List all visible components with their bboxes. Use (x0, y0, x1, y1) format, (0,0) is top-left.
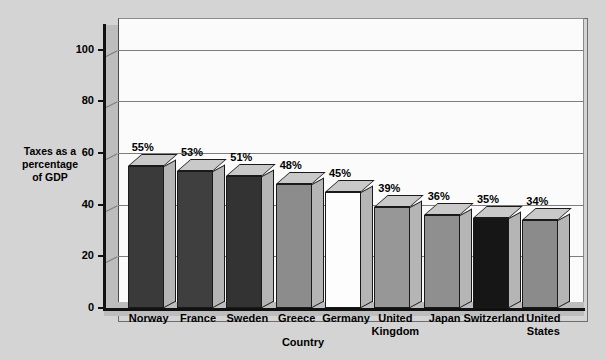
bar-front-face (522, 220, 558, 308)
bar-chart: 020406080100 Taxes as a percentage of GD… (0, 0, 606, 359)
bar-value-label: 39% (378, 182, 400, 194)
bar-value-label: 53% (181, 146, 203, 158)
bar-value-label: 48% (280, 159, 302, 171)
bar-side-face (262, 170, 274, 308)
bar-front-face (177, 171, 213, 308)
bar-side-face (164, 160, 176, 308)
bar-france: 53% (177, 171, 213, 308)
bar-norway: 55% (128, 166, 164, 308)
bar-switzerland: 35% (473, 218, 509, 308)
bar-value-label: 34% (526, 195, 548, 207)
bar-germany: 45% (325, 192, 361, 308)
bar-japan: 36% (424, 215, 460, 308)
bar-front-face (325, 192, 361, 308)
bar-value-label: 51% (230, 151, 252, 163)
bar-value-label: 36% (428, 190, 450, 202)
bar-sweden: 51% (226, 176, 262, 308)
bar-value-label: 45% (329, 167, 351, 179)
bar-front-face (374, 207, 410, 308)
bar-side-face (460, 209, 472, 308)
bar-front-face (226, 176, 262, 308)
bar-value-label: 55% (132, 141, 154, 153)
bar-front-face (424, 215, 460, 308)
bar-greece: 48% (276, 184, 312, 308)
bar-side-face (312, 178, 324, 308)
bar-united-states: 34% (522, 220, 558, 308)
x-label-line: United (511, 312, 576, 325)
x-axis-label-united-states: UnitedStates (511, 312, 576, 338)
bars-layer: 55%53%51%48%45%39%36%35%34% (0, 0, 606, 359)
bar-front-face (276, 184, 312, 308)
bar-side-face (558, 214, 570, 308)
bar-side-face (509, 211, 521, 308)
bar-front-face (473, 218, 509, 308)
bar-front-face (128, 166, 164, 308)
bar-side-face (213, 165, 225, 308)
bar-value-label: 35% (477, 193, 499, 205)
bar-side-face (410, 201, 422, 308)
bar-side-face (361, 185, 373, 308)
bar-united-kingdom: 39% (374, 207, 410, 308)
x-axis-title: Country (0, 336, 606, 348)
